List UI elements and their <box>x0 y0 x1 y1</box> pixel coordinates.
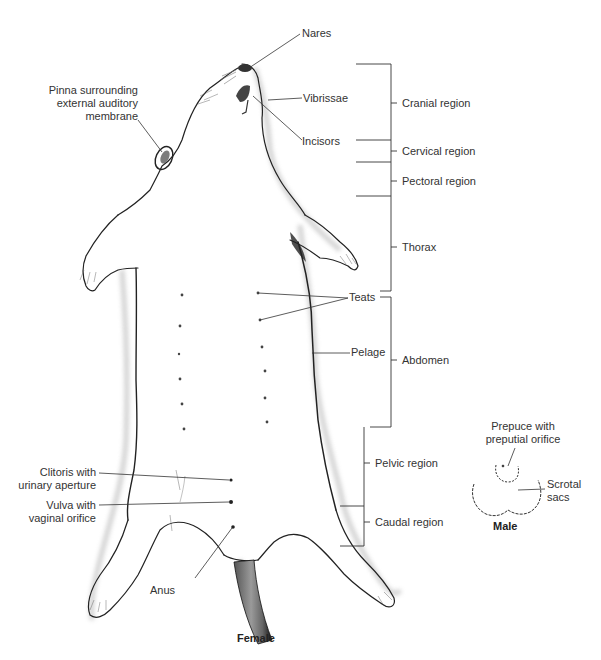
label-pinna-line3: membrane <box>30 110 138 123</box>
caption-male: Male <box>493 520 517 533</box>
label-scrotal-line2: sacs <box>547 491 581 504</box>
label-clitoris: Clitoris with urinary aperture <box>10 466 96 492</box>
label-anus: Anus <box>150 584 175 597</box>
leader-lines <box>99 34 545 578</box>
label-nares: Nares <box>302 27 331 40</box>
region-thorax: Thorax <box>402 241 436 254</box>
pinna-ear <box>152 144 177 173</box>
label-vulva-line2: vaginal orifice <box>10 512 96 525</box>
region-cranial: Cranial region <box>402 97 470 110</box>
region-pectoral: Pectoral region <box>402 175 476 188</box>
label-prepuce-line2: preputial orifice <box>478 433 568 446</box>
label-prepuce: Prepuce with preputial orifice <box>478 420 568 446</box>
label-prepuce-line1: Prepuce with <box>478 420 568 433</box>
region-pelvic: Pelvic region <box>375 457 438 470</box>
region-caudal: Caudal region <box>375 516 444 529</box>
label-vulva: Vulva with vaginal orifice <box>10 499 96 525</box>
label-clitoris-line1: Clitoris with <box>10 466 96 479</box>
label-scrotal-line1: Scrotal <box>547 478 581 491</box>
midline-seam <box>180 476 185 502</box>
label-pinna-line2: external auditory <box>30 97 138 110</box>
label-scrotal-sacs: Scrotal sacs <box>547 478 581 504</box>
teats-left <box>178 294 186 431</box>
female-genital-points <box>229 478 235 528</box>
region-brackets <box>340 64 397 546</box>
label-incisors: Incisors <box>302 135 340 148</box>
label-pinna-line1: Pinna surrounding <box>30 84 138 97</box>
label-clitoris-line2: urinary aperture <box>10 479 96 492</box>
label-vulva-line1: Vulva with <box>10 499 96 512</box>
label-teats: Teats <box>349 291 375 304</box>
snout <box>220 64 252 114</box>
rat-external-anatomy-diagram: Nares Vibrissae Incisors Pinna surroundi… <box>0 0 601 660</box>
male-inset-drawing <box>473 465 541 516</box>
label-pinna: Pinna surrounding external auditory memb… <box>30 84 138 123</box>
body-outline <box>83 64 394 617</box>
caption-female: Female <box>237 632 275 645</box>
region-abdomen: Abdomen <box>402 354 449 367</box>
region-cervical: Cervical region <box>402 145 475 158</box>
label-pelage: Pelage <box>351 346 385 359</box>
teats-right <box>257 292 269 424</box>
label-vibrissae: Vibrissae <box>303 92 348 105</box>
